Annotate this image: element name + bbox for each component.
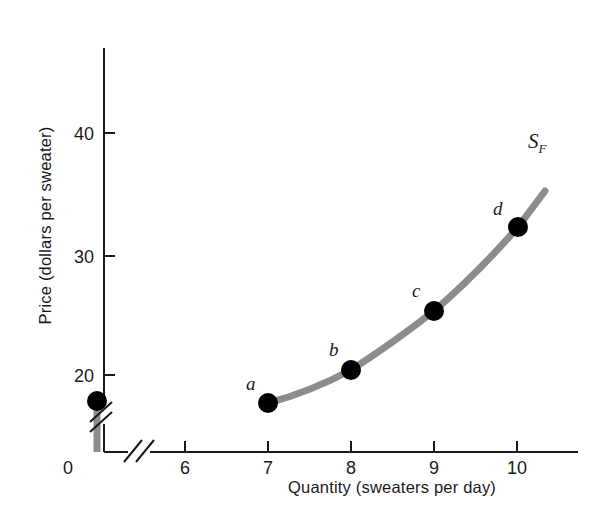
point-label-a: a xyxy=(246,373,256,395)
point-label-c: c xyxy=(412,280,420,302)
y-tick-label-20: 20 xyxy=(50,366,94,387)
x-tick-label-8: 8 xyxy=(336,458,366,479)
x-tick-label-9: 9 xyxy=(419,458,449,479)
x-tick-label-0: 0 xyxy=(53,458,83,479)
y-axis-ticks xyxy=(104,133,115,375)
supply-curve-path xyxy=(268,191,545,403)
data-point-d[interactable] xyxy=(508,217,528,237)
data-point-origin[interactable] xyxy=(87,391,107,411)
y-axis-title: Price (dollars per sweater) xyxy=(36,111,55,341)
x-tick-label-6: 6 xyxy=(170,458,200,479)
x-axis-break-marks xyxy=(124,440,154,462)
data-point-a[interactable] xyxy=(258,393,278,413)
data-point-b[interactable] xyxy=(341,360,361,380)
y-tick-label-30: 30 xyxy=(50,247,94,268)
curve-label-base: S xyxy=(528,129,539,153)
point-label-d: d xyxy=(493,198,503,220)
curve-label-sf: SF xyxy=(528,129,546,157)
data-point-c[interactable] xyxy=(424,301,444,321)
y-tick-label-40: 40 xyxy=(50,124,94,145)
x-tick-label-7: 7 xyxy=(253,458,283,479)
x-axis-title: Quantity (sweaters per day) xyxy=(288,478,496,497)
supply-curve-figure: Price (dollars per sweater) Quantity (sw… xyxy=(0,0,599,521)
curve-label-subscript: F xyxy=(539,141,547,156)
point-label-b: b xyxy=(329,339,339,361)
x-axis-ticks xyxy=(185,441,517,452)
x-tick-label-10: 10 xyxy=(502,458,532,479)
